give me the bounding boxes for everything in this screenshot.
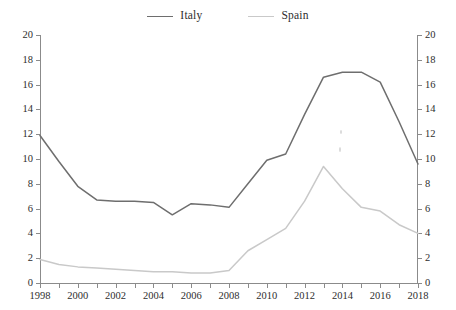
x-tick-label-2002: 2002 (105, 291, 126, 302)
y-tick-right-2 (418, 258, 422, 259)
y-tick-label-left-0: 0 (28, 278, 33, 289)
series-line-spain (40, 166, 418, 273)
plot-area: 02468101214161820 02468101214161820 1998… (40, 35, 418, 283)
x-tick-2010 (267, 284, 268, 288)
x-tick-label-2016: 2016 (370, 291, 391, 302)
y-tick-label-left-14: 14 (23, 104, 34, 115)
y-tick-label-right-12: 12 (425, 129, 436, 140)
y-tick-label-right-2: 2 (425, 253, 430, 264)
legend-swatch-italy (147, 16, 173, 17)
x-tick-2016 (380, 284, 381, 288)
x-tick-2000 (78, 284, 79, 288)
x-tick-2003 (135, 284, 136, 288)
y-tick-right-8 (418, 184, 422, 185)
x-tick-2005 (172, 284, 173, 288)
y-tick-right-14 (418, 109, 422, 110)
x-tick-2009 (248, 284, 249, 288)
x-tick-2012 (305, 284, 306, 288)
y-tick-right-18 (418, 60, 422, 61)
y-tick-label-right-6: 6 (425, 204, 430, 215)
y-tick-label-left-18: 18 (23, 55, 34, 66)
x-tick-label-2000: 2000 (67, 291, 88, 302)
x-tick-1999 (59, 284, 60, 288)
artifact-speck-2 (339, 147, 341, 152)
x-tick-2001 (97, 284, 98, 288)
y-tick-label-left-2: 2 (28, 253, 33, 264)
y-tick-label-right-8: 8 (425, 179, 430, 190)
x-tick-label-2018: 2018 (408, 291, 429, 302)
y-tick-right-12 (418, 134, 422, 135)
y-tick-label-left-6: 6 (28, 204, 33, 215)
x-tick-label-2014: 2014 (332, 291, 353, 302)
y-tick-label-right-18: 18 (425, 55, 436, 66)
x-tick-1998 (40, 284, 41, 288)
x-tick-label-2012: 2012 (294, 291, 315, 302)
legend-label-italy: Italy (180, 10, 202, 22)
x-tick-2014 (342, 284, 343, 288)
y-tick-right-20 (418, 35, 422, 36)
x-tick-2007 (210, 284, 211, 288)
y-tick-label-left-12: 12 (23, 129, 34, 140)
y-tick-right-6 (418, 209, 422, 210)
y-tick-label-left-16: 16 (23, 80, 34, 91)
y-tick-label-right-10: 10 (425, 154, 436, 165)
series-line-italy (40, 72, 418, 215)
y-tick-right-10 (418, 159, 422, 160)
legend-label-spain: Spain (281, 10, 308, 22)
x-tick-2008 (229, 284, 230, 288)
x-tick-2015 (361, 284, 362, 288)
x-tick-2006 (191, 284, 192, 288)
y-tick-label-left-8: 8 (28, 179, 33, 190)
legend-swatch-spain (248, 16, 274, 17)
legend-entry-spain: Spain (248, 10, 308, 22)
x-tick-2013 (324, 284, 325, 288)
y-tick-label-right-0: 0 (425, 278, 430, 289)
x-tick-2011 (286, 284, 287, 288)
chart-legend: Italy Spain (0, 6, 456, 26)
x-tick-2018 (418, 284, 419, 288)
y-tick-label-left-20: 20 (23, 30, 34, 41)
y-tick-label-right-16: 16 (425, 80, 436, 91)
x-tick-label-2004: 2004 (143, 291, 164, 302)
line-chart: Italy Spain 02468101214161820 0246810121… (0, 0, 456, 310)
x-tick-2017 (399, 284, 400, 288)
y-tick-label-left-4: 4 (28, 228, 33, 239)
y-tick-label-left-10: 10 (23, 154, 34, 165)
x-tick-label-1998: 1998 (30, 291, 51, 302)
series-layer (40, 35, 418, 284)
y-tick-label-right-4: 4 (425, 228, 430, 239)
y-tick-label-right-14: 14 (425, 104, 436, 115)
x-tick-label-2008: 2008 (219, 291, 240, 302)
x-tick-label-2006: 2006 (181, 291, 202, 302)
x-tick-2004 (153, 284, 154, 288)
x-tick-2002 (116, 284, 117, 288)
x-tick-label-2010: 2010 (256, 291, 277, 302)
legend-entry-italy: Italy (147, 10, 202, 22)
y-tick-right-16 (418, 85, 422, 86)
y-tick-label-right-20: 20 (425, 30, 436, 41)
artifact-speck-1 (340, 130, 342, 134)
